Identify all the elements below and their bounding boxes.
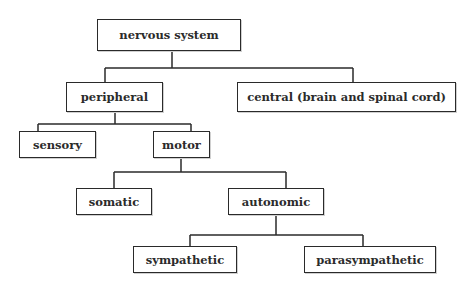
node-nervous-system: nervous system: [97, 19, 241, 51]
node-central: central (brain and spinal cord): [237, 82, 456, 112]
node-motor: motor: [153, 131, 210, 158]
node-autonomic: autonomic: [228, 188, 324, 215]
node-sympathetic: sympathetic: [133, 246, 237, 273]
node-somatic: somatic: [76, 188, 152, 215]
node-sensory: sensory: [19, 131, 96, 158]
node-peripheral: peripheral: [66, 82, 163, 112]
nervous-system-tree-diagram: nervous system peripheral central (brain…: [0, 0, 475, 286]
node-parasympathetic: parasympathetic: [304, 246, 436, 273]
